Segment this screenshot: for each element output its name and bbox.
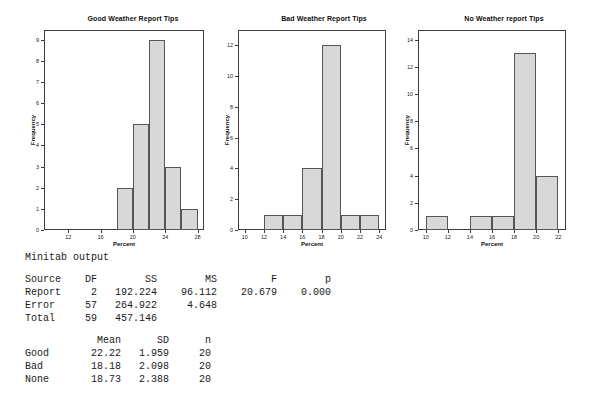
histogram-good-weather-tips: Good Weather Report Tips Frequency Perce… [28,8,222,252]
x-axis-tick [426,230,427,233]
x-tick-label: 24 [157,234,173,240]
histogram-bar [283,215,302,230]
y-tick-label: 0 [28,227,39,233]
y-tick-label: 14 [402,37,413,43]
x-axis-tick [379,230,380,233]
histogram-bar [470,216,492,230]
histogram-bar [360,215,379,230]
x-axis-tick [101,230,102,233]
histogram-bar [322,45,341,230]
y-tick-label: 2 [222,196,233,202]
y-tick-label: 4 [402,173,413,179]
y-axis-tick [415,40,418,41]
y-axis-tick [415,176,418,177]
x-tick-label: 10 [418,234,434,240]
y-axis-tick [41,82,44,83]
y-axis-tick [415,94,418,95]
minitab-output-title: Minitab output [25,251,331,264]
y-axis-tick [235,168,238,169]
y-axis-tick [41,40,44,41]
x-tick-label: 18 [314,234,330,240]
summary-row: Bad 18.18 2.098 20 [25,360,331,373]
histogram-no-weather-tips: No Weather report Tips Frequency Percent… [402,8,590,252]
x-axis-label: Percent [44,241,204,247]
x-tick-label: 16 [484,234,500,240]
x-tick-label: 20 [125,234,141,240]
x-tick-label: 10 [237,234,253,240]
minitab-output-section: Minitab output Source DF SS MS F pReport… [25,251,331,386]
x-tick-label: 12 [440,234,456,240]
y-tick-label: 6 [28,100,39,106]
y-tick-label: 10 [402,91,413,97]
histogram-bar [514,53,536,230]
y-axis-tick [415,230,418,231]
summary-row: Good 22.22 1.959 20 [25,347,331,360]
x-axis-label: Percent [238,241,386,247]
y-tick-label: 8 [28,58,39,64]
y-axis-tick [235,199,238,200]
x-axis-tick [302,230,303,233]
histogram-bar [264,215,283,230]
x-tick-label: 18 [506,234,522,240]
histogram-bar [492,216,514,230]
x-axis-tick [165,230,166,233]
y-tick-label: 8 [402,118,413,124]
y-axis-tick [41,188,44,189]
y-tick-label: 10 [222,73,233,79]
y-axis-tick [235,76,238,77]
anova-row: Report 2 192.224 96.112 20.679 0.000 [25,286,331,299]
y-axis-tick [41,167,44,168]
summary-row: None 18.73 2.388 20 [25,373,331,386]
x-axis-tick [133,230,134,233]
x-tick-label: 28 [190,234,206,240]
chart-title: Good Weather Report Tips [44,15,222,22]
x-axis-tick [198,230,199,233]
y-tick-label: 5 [28,121,39,127]
y-tick-label: 2 [402,200,413,206]
x-tick-label: 20 [333,234,349,240]
y-tick-label: 9 [28,37,39,43]
y-axis-tick [415,148,418,149]
y-tick-label: 6 [222,135,233,141]
y-tick-label: 3 [28,164,39,170]
histogram-bad-weather-tips: Bad Weather Report Tips Frequency Percen… [222,8,410,252]
x-tick-label: 22 [352,234,368,240]
x-axis-tick [448,230,449,233]
x-tick-label: 14 [275,234,291,240]
y-tick-label: 8 [222,104,233,110]
y-axis-tick [41,61,44,62]
x-tick-label: 20 [528,234,544,240]
x-axis-tick [492,230,493,233]
x-axis-tick [360,230,361,233]
x-axis-tick [558,230,559,233]
y-tick-label: 1 [28,206,39,212]
y-axis-tick [41,124,44,125]
x-axis-tick [536,230,537,233]
x-tick-label: 16 [93,234,109,240]
histogram-bar [165,167,181,230]
y-tick-label: 4 [222,165,233,171]
histogram-bar [181,209,197,230]
x-axis-tick [470,230,471,233]
chart-title: No Weather report Tips [418,15,590,22]
x-tick-label: 12 [60,234,76,240]
x-tick-label: 24 [371,234,387,240]
y-tick-label: 6 [402,145,413,151]
x-axis-tick [341,230,342,233]
x-tick-label: 16 [294,234,310,240]
y-axis-tick [41,145,44,146]
y-tick-label: 4 [28,142,39,148]
x-axis-label: Percent [418,241,566,247]
y-axis-tick [235,107,238,108]
x-axis-tick [322,230,323,233]
chart-title: Bad Weather Report Tips [238,15,410,22]
x-tick-label: 14 [462,234,478,240]
y-axis-tick [41,230,44,231]
summary-row: Mean SD n [25,334,331,347]
x-axis-tick [514,230,515,233]
y-axis-tick [41,209,44,210]
y-axis-label: Frequency [30,115,36,145]
anova-row: Error 57 264.922 4.648 [25,299,331,312]
histogram-bar [117,188,133,230]
anova-table: Source DF SS MS F pReport 2 192.224 96.1… [25,273,331,325]
